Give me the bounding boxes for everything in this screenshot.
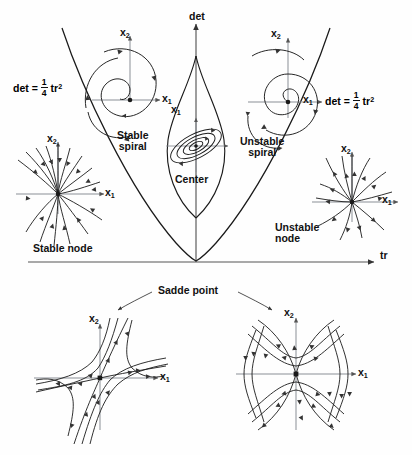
- stable-node-portrait: [16, 142, 104, 246]
- x1-subscript: 1: [166, 375, 170, 384]
- x1-subscript: 1: [309, 98, 313, 107]
- x1-subscript: 1: [177, 108, 181, 117]
- saddle-left-x2-label: x2: [89, 313, 99, 326]
- saddle-left-x1-label: x1: [160, 371, 170, 384]
- stable-spiral-x2-label: x2: [120, 27, 130, 40]
- x2-subscript: 2: [95, 317, 99, 326]
- unstable-spiral-x2-label: x2: [271, 28, 281, 41]
- x2-subscript: 2: [290, 311, 294, 320]
- x1-subscript: 1: [388, 198, 392, 207]
- equation-exponent-left: 2: [58, 82, 62, 91]
- center-x1-label: x1: [171, 104, 181, 117]
- fraction-numerator-right: 1: [353, 91, 360, 100]
- x2-subscript: 2: [53, 137, 57, 146]
- fraction-denominator-left: 4: [41, 89, 48, 98]
- unstable-node-line2: node: [275, 233, 319, 244]
- equation-lhs-right: det =: [325, 95, 350, 107]
- region-label-saddle-point: Sadde point: [158, 285, 218, 296]
- region-label-unstable-spiral: Unstable spiral: [240, 136, 284, 159]
- fraction-denominator-right: 4: [353, 102, 360, 111]
- stable-spiral-line2: spiral: [117, 141, 149, 152]
- stable-spiral-portrait: [85, 36, 160, 143]
- equation-fraction-right: 1 4: [353, 91, 360, 110]
- saddle-portrait-right: [236, 318, 356, 430]
- unstable-node-x2-label: x2: [341, 143, 351, 156]
- unstable-node-x1-label: x1: [382, 194, 392, 207]
- unstable-spiral-line2: spiral: [240, 147, 284, 158]
- main-axes: [28, 24, 374, 262]
- region-label-center: Center: [175, 174, 208, 185]
- discriminant-equation-left: det = 1 4 tr2: [13, 78, 62, 97]
- saddle-right-x2-label: x2: [284, 307, 294, 320]
- equation-rhs-left: tr2: [51, 82, 63, 94]
- equation-fraction-left: 1 4: [41, 78, 48, 97]
- det-axis-label: det: [189, 11, 205, 22]
- saddle-portrait-left: [34, 318, 168, 444]
- equation-lhs-left: det =: [13, 82, 38, 94]
- x1-subscript: 1: [364, 371, 368, 380]
- center-portrait: [166, 118, 228, 172]
- region-label-stable-node: Stable node: [33, 243, 93, 254]
- region-label-stable-spiral: Stable spiral: [117, 130, 149, 153]
- region-label-unstable-node: Unstable node: [275, 222, 319, 245]
- equation-rhs-right: tr2: [363, 95, 375, 107]
- discriminant-equation-right: det = 1 4 tr2: [325, 91, 374, 110]
- saddle-right-x1-label: x1: [358, 367, 368, 380]
- stable-node-x2-label: x2: [47, 133, 57, 146]
- phase-portrait-canvas: [0, 0, 412, 455]
- x2-subscript: 2: [347, 147, 351, 156]
- x2-subscript: 2: [126, 31, 130, 40]
- stable-node-x1-label: x1: [105, 187, 115, 200]
- fraction-numerator-left: 1: [41, 78, 48, 87]
- x2-subscript: 2: [277, 32, 281, 41]
- tr-axis-label: tr: [380, 250, 388, 261]
- trace-determinant-figure: det tr det = 1 4 tr2 det = 1 4 tr2 Stabl…: [0, 0, 412, 455]
- x1-subscript: 1: [111, 191, 115, 200]
- equation-exponent-right: 2: [370, 95, 374, 104]
- unstable-spiral-x1-label: x1: [303, 94, 313, 107]
